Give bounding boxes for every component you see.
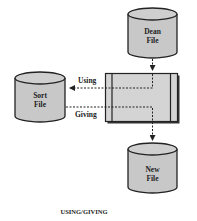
using-label: Using: [78, 76, 97, 85]
sort-file-label-line2: File: [34, 100, 47, 109]
dean-file-label-line1: Dean: [144, 27, 161, 36]
new-file-cylinder: New File: [128, 143, 177, 193]
new-file-label-line2: File: [146, 174, 159, 183]
diagram-caption: USING/GIVING: [61, 208, 108, 215]
using-giving-diagram: Dean File Sort File New File Using Givin…: [0, 0, 197, 221]
new-file-label-line1: New: [145, 165, 160, 174]
sort-file-cylinder: Sort File: [15, 72, 65, 122]
dean-file-cylinder: Dean File: [128, 8, 177, 58]
giving-label: Giving: [75, 110, 97, 119]
dean-file-label-line2: File: [146, 36, 159, 45]
sort-process-box: [106, 74, 180, 124]
sort-file-label-line1: Sort: [33, 91, 47, 100]
